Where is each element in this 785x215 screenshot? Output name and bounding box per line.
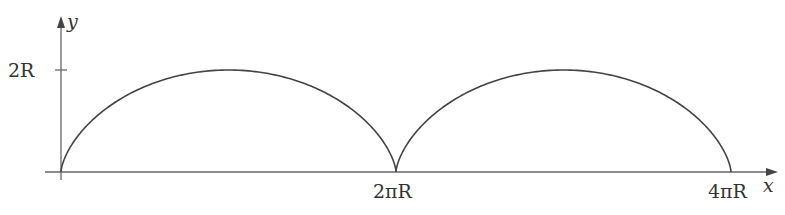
diagram-canvas: y 2R 2πR 4πR x <box>0 0 785 215</box>
x-tick-label-4piR: 4πR <box>708 180 748 202</box>
y-axis-arrow-icon <box>57 16 65 28</box>
cycloid-curve <box>61 70 731 172</box>
cycloid-diagram: y 2R 2πR 4πR x <box>0 0 785 215</box>
x-axis-label: x <box>763 174 774 196</box>
x-tick-label-2piR: 2πR <box>373 180 413 202</box>
y-axis-label: y <box>66 10 78 32</box>
y-tick-label: 2R <box>8 59 35 81</box>
